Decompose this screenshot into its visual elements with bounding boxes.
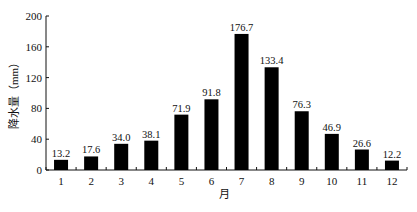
x-tick-label: 10 <box>326 175 338 187</box>
bar-value-label: 46.9 <box>323 122 341 133</box>
precipitation-bar-chart: 04080120160200123456789101112 13.217.634… <box>0 0 417 212</box>
x-tick-label: 8 <box>269 175 275 187</box>
bar-value-label: 176.7 <box>230 22 254 33</box>
x-tick-label: 3 <box>118 175 124 187</box>
x-tick-label: 6 <box>209 175 215 187</box>
bar-month-9 <box>295 111 309 170</box>
y-tick-label: 40 <box>31 133 43 145</box>
x-tick-label: 4 <box>149 175 155 187</box>
y-tick-label: 120 <box>26 72 43 84</box>
x-tick-label: 12 <box>386 175 397 187</box>
x-tick-label: 2 <box>88 175 94 187</box>
bar-value-label: 12.2 <box>383 149 401 160</box>
bar-month-8 <box>265 67 279 170</box>
x-tick-label: 11 <box>357 175 368 187</box>
bar-value-label: 38.1 <box>142 129 160 140</box>
bars: 13.217.634.038.171.991.8176.7133.476.346… <box>52 22 401 170</box>
bar-month-7 <box>235 34 249 170</box>
x-tick-label: 9 <box>299 175 305 187</box>
y-axis-label: 降水量（mm） <box>7 57 20 129</box>
bar-month-3 <box>114 144 128 170</box>
y-tick-label: 0 <box>37 164 43 176</box>
bar-value-label: 26.6 <box>353 138 371 149</box>
bar-month-11 <box>355 150 369 170</box>
y-tick-label: 80 <box>31 102 43 114</box>
bar-month-4 <box>144 141 158 170</box>
bar-month-2 <box>84 156 98 170</box>
y-tick-label: 200 <box>26 10 43 22</box>
bar-value-label: 71.9 <box>172 103 190 114</box>
bar-value-label: 76.3 <box>293 99 311 110</box>
bar-value-label: 133.4 <box>260 55 284 66</box>
bar-value-label: 13.2 <box>52 148 70 159</box>
x-tick-label: 1 <box>58 175 64 187</box>
bar-value-label: 91.8 <box>202 87 220 98</box>
x-axis-label: 月 <box>219 188 230 200</box>
bar-month-6 <box>204 99 218 170</box>
bar-month-5 <box>174 115 188 170</box>
y-tick-label: 160 <box>26 41 43 53</box>
bar-month-1 <box>54 160 68 170</box>
x-tick-label: 5 <box>179 175 185 187</box>
x-tick-label: 7 <box>239 175 245 187</box>
bar-value-label: 17.6 <box>82 144 100 155</box>
bar-value-label: 34.0 <box>112 132 130 143</box>
bar-month-10 <box>325 134 339 170</box>
bar-month-12 <box>385 161 399 170</box>
